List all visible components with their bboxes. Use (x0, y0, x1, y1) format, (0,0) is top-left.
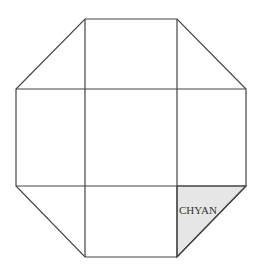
octagon-diagram: CHYAN (0, 0, 261, 271)
region-label: CHYAN (179, 204, 217, 216)
octagon-outline (16, 19, 246, 257)
